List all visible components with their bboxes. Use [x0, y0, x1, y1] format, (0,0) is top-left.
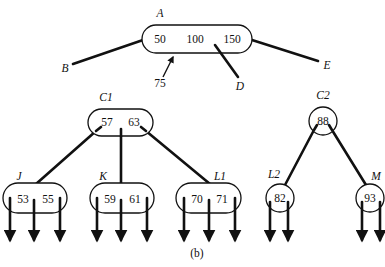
node-j-key-2: 55 [42, 193, 54, 205]
node-j-key-1: 53 [17, 193, 29, 205]
node-j-label: J [16, 170, 22, 182]
node-m: M 93 [356, 170, 384, 240]
edge-c1-l1 [146, 131, 210, 184]
node-c2-key-1: 88 [317, 115, 329, 127]
node-a-key-1: 50 [154, 33, 166, 45]
subtree-c1: C1 57 63 [36, 91, 210, 184]
node-l2-key-1: 82 [274, 192, 286, 204]
node-l1: L1 70 71 [176, 170, 241, 240]
node-a-label: A [155, 7, 164, 19]
node-m-label: M [370, 170, 382, 182]
node-j: J 53 55 [3, 170, 67, 240]
node-l2: L2 82 [266, 168, 294, 240]
node-l1-key-1: 70 [191, 193, 203, 205]
node-a: A 50 100 150 B E D 75 [61, 7, 330, 92]
edge-c2-m [332, 130, 366, 185]
node-a-key-2: 100 [186, 33, 204, 45]
node-c2-label: C2 [316, 89, 330, 101]
label-b: B [61, 62, 68, 74]
node-c1-key-2: 63 [128, 116, 140, 128]
node-l1-key-2: 71 [216, 193, 228, 205]
edge-c1-j [36, 131, 96, 184]
insert-arrow-icon [163, 57, 173, 77]
node-c1-label: C1 [99, 91, 112, 103]
node-c1-key-1: 57 [101, 116, 113, 128]
node-k-label: K [98, 170, 108, 182]
insert-key-75: 75 [154, 77, 166, 89]
node-l1-label: L1 [213, 170, 226, 182]
node-a-key-3: 150 [223, 33, 241, 45]
pointer-b-line [73, 40, 143, 64]
node-k-key-2: 61 [129, 193, 141, 205]
label-d: D [235, 80, 245, 92]
label-e: E [322, 59, 330, 71]
node-l2-label: L2 [267, 168, 280, 180]
btree-diagram: A 50 100 150 B E D 75 C1 57 63 C2 88 J 5… [0, 0, 385, 267]
subtree-c2: C2 88 [285, 89, 366, 185]
pointer-e-line [252, 40, 318, 61]
node-m-key-1: 93 [364, 192, 376, 204]
node-k-key-1: 59 [104, 193, 116, 205]
figure-caption: (b) [190, 247, 204, 260]
edge-c2-l2 [285, 130, 314, 185]
